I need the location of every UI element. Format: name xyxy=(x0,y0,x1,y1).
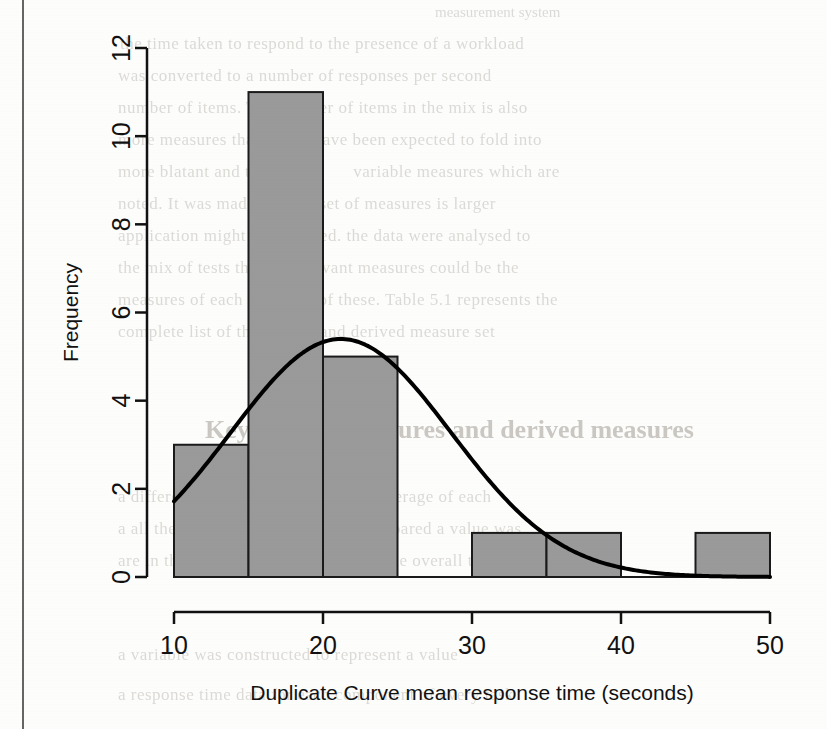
histogram-bar xyxy=(472,533,547,577)
y-axis-title: Frequency xyxy=(59,262,82,362)
histogram-plot: 024681012 1020304050 Frequency Duplicate… xyxy=(0,0,827,729)
scanned-page: measurement system the time taken to res… xyxy=(0,0,827,729)
y-axis: 024681012 xyxy=(107,34,147,584)
histogram-bar xyxy=(696,533,771,577)
x-axis: 1020304050 xyxy=(160,612,784,659)
y-axis-tick-label: 10 xyxy=(107,122,135,150)
x-axis-tick-label: 20 xyxy=(309,631,337,659)
y-axis-tick-label: 8 xyxy=(107,217,135,231)
y-axis-tick-label: 0 xyxy=(107,570,135,584)
x-axis-tick-label: 10 xyxy=(160,631,188,659)
y-axis-tick-label: 12 xyxy=(107,34,135,62)
x-axis-tick-label: 30 xyxy=(458,631,486,659)
bars-group xyxy=(174,92,770,577)
x-axis-tick-label: 50 xyxy=(756,631,784,659)
histogram-bar xyxy=(249,92,324,577)
y-axis-tick-label: 6 xyxy=(107,306,135,320)
x-axis-title: Duplicate Curve mean response time (seco… xyxy=(250,681,694,704)
histogram-svg: 024681012 1020304050 Frequency Duplicate… xyxy=(0,0,827,729)
x-axis-tick-label: 40 xyxy=(607,631,635,659)
histogram-bar xyxy=(323,357,398,577)
histogram-bar xyxy=(174,445,249,577)
y-axis-tick-label: 2 xyxy=(107,482,135,496)
y-axis-tick-label: 4 xyxy=(107,394,135,408)
